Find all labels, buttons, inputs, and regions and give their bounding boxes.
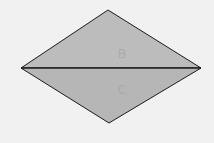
lower-label: C — [117, 82, 126, 97]
upper-label: B — [118, 46, 127, 61]
rhombus-diagram: B C — [0, 0, 214, 143]
